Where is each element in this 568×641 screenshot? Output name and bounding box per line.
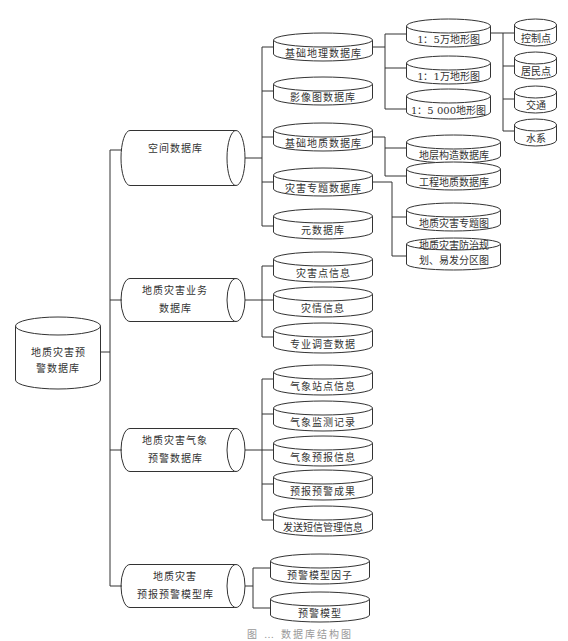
- sms-management-info-label: 发送短信管理信息: [273, 521, 373, 535]
- topo-map-1-10000-label: 1：1万地形图: [406, 70, 491, 84]
- image-map-database-label: 影像图数据库: [273, 91, 373, 105]
- meteo-database-label-line1: 地质灾害气象: [120, 434, 230, 448]
- image-map-database: 影像图数据库: [273, 76, 373, 106]
- business-database-label-line1: 地质灾害业务: [120, 284, 230, 298]
- engineering-geology-database: 工程地质数据库: [406, 161, 501, 191]
- basic-geographic-database: 基础地理数据库: [273, 32, 373, 62]
- weather-forecast-info: 气象预报信息: [273, 435, 373, 467]
- warning-model-label: 预警模型: [270, 607, 370, 621]
- model-database-label-line2: 预报预警模型库: [120, 588, 230, 602]
- hazard-point-info-label: 灾害点信息: [273, 267, 373, 281]
- residential-point-cylinder: 居民点: [514, 51, 557, 81]
- warning-model-factor-label: 预警模型因子: [270, 569, 370, 583]
- warning-model-factor: 预警模型因子: [270, 553, 370, 585]
- root-label-line1: 地质灾害预: [15, 346, 101, 360]
- model-database-cylinder: 地质灾害 预报预警模型库: [120, 564, 246, 608]
- basic-geology-database-label: 基础地质数据库: [273, 137, 373, 151]
- transport-label: 交通: [514, 99, 557, 113]
- residential-point-label: 居民点: [514, 65, 557, 79]
- control-point-cylinder: 控制点: [514, 18, 557, 48]
- hazard-prevention-zoning-label-line1: 地质灾害防治规: [406, 239, 501, 253]
- basic-geographic-database-label: 基础地理数据库: [273, 47, 373, 61]
- topo-map-1-10000: 1：1万地形图: [406, 55, 491, 85]
- forecast-warning-results: 预报预警成果: [273, 469, 373, 501]
- hazard-thematic-map-label: 地质灾害专题图: [406, 217, 501, 231]
- spatial-database-label: 空间数据库: [120, 142, 230, 156]
- water-system-cylinder: 水系: [514, 118, 557, 148]
- metadata-database: 元数据库: [273, 208, 373, 240]
- figure-caption: 图 … 数据库结构图: [210, 626, 390, 641]
- topo-map-1-50000: 1：5万地形图: [406, 18, 491, 48]
- metadata-database-label: 元数据库: [273, 224, 373, 238]
- weather-station-info: 气象站点信息: [273, 364, 373, 396]
- engineering-geology-database-label: 工程地质数据库: [406, 176, 501, 190]
- hazard-thematic-database: 灾害专题数据库: [273, 167, 373, 197]
- transport-cylinder: 交通: [514, 85, 557, 115]
- hazard-thematic-database-label: 灾害专题数据库: [273, 182, 373, 196]
- sms-management-info: 发送短信管理信息: [273, 505, 373, 537]
- model-database-label-line1: 地质灾害: [120, 570, 230, 584]
- strata-structure-database: 地层构造数据库: [406, 134, 501, 164]
- hazard-prevention-zoning-map: 地质灾害防治规 划、易发分区图: [406, 237, 501, 271]
- topo-map-1-5000-label: 1：5 000地形图: [406, 104, 491, 118]
- professional-survey-data-label: 专业调查数据: [273, 338, 373, 352]
- weather-monitoring-records: 气象监测记录: [273, 400, 373, 432]
- warning-model: 预警模型: [270, 591, 370, 623]
- root-database-cylinder: 地质灾害预 警数据库: [15, 316, 101, 390]
- root-label-line2: 警数据库: [15, 362, 101, 376]
- business-database-label-line2: 数据库: [120, 302, 230, 316]
- business-database-cylinder: 地质灾害业务 数据库: [120, 278, 246, 322]
- topo-map-1-50000-label: 1：5万地形图: [406, 33, 491, 47]
- hazard-point-info: 灾害点信息: [273, 251, 373, 283]
- water-system-label: 水系: [514, 132, 557, 146]
- spatial-database-cylinder: 空间数据库: [120, 130, 246, 186]
- disaster-situation-info: 灾情信息: [273, 286, 373, 318]
- control-point-label: 控制点: [514, 32, 557, 46]
- weather-station-info-label: 气象站点信息: [273, 380, 373, 394]
- hazard-thematic-map: 地质灾害专题图: [406, 202, 501, 232]
- forecast-warning-results-label: 预报预警成果: [273, 485, 373, 499]
- professional-survey-data: 专业调查数据: [273, 322, 373, 354]
- weather-forecast-info-label: 气象预报信息: [273, 451, 373, 465]
- weather-monitoring-records-label: 气象监测记录: [273, 416, 373, 430]
- disaster-situation-info-label: 灾情信息: [273, 302, 373, 316]
- meteo-database-label-line2: 预警数据库: [120, 452, 230, 466]
- hazard-prevention-zoning-label-line2: 划、易发分区图: [406, 254, 501, 268]
- basic-geology-database: 基础地质数据库: [273, 122, 373, 152]
- topo-map-1-5000: 1：5 000地形图: [406, 88, 491, 120]
- meteo-warning-database-cylinder: 地质灾害气象 预警数据库: [120, 428, 246, 472]
